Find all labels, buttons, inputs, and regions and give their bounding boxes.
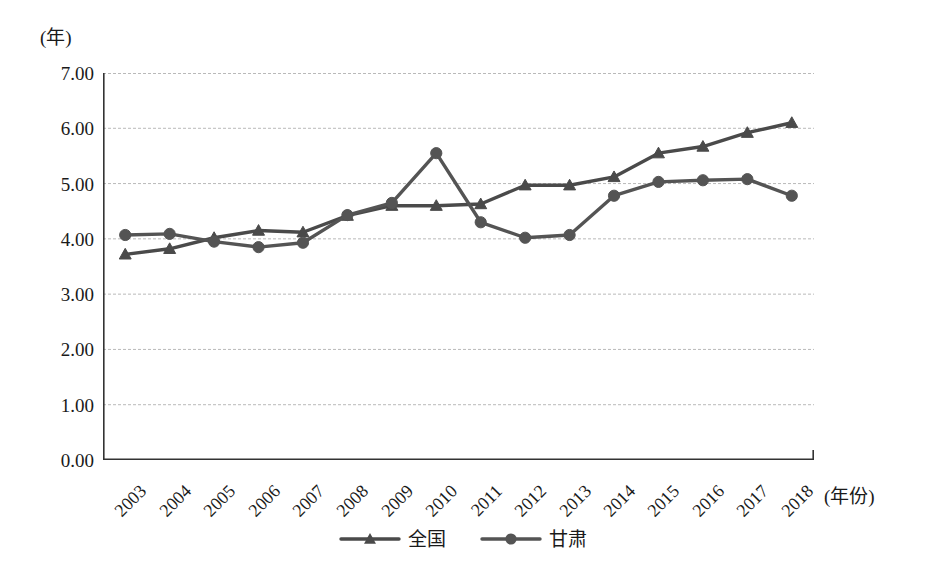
legend-item-national[interactable]: 全国 — [339, 530, 446, 549]
x-axis-tick-label: 2015 — [645, 482, 683, 520]
x-axis-tick-label: 2003 — [111, 482, 149, 520]
x-axis-tick-label: 2017 — [734, 482, 772, 520]
x-axis-tick-label: 2016 — [689, 482, 727, 520]
x-axis-tick-label: 2014 — [600, 482, 638, 520]
legend-triangle-marker-icon — [339, 530, 401, 548]
chart-legend: 全国甘肃 — [0, 519, 926, 559]
x-axis-tick-label: 2012 — [511, 482, 549, 520]
legend-circle-marker-icon — [480, 530, 542, 548]
legend-label: 全国 — [408, 530, 446, 549]
x-axis-tick-label: 2004 — [156, 482, 194, 520]
x-axis-tick-label: 2008 — [334, 482, 372, 520]
x-axis-tick-label: 2006 — [245, 482, 283, 520]
legend-item-gansu[interactable]: 甘肃 — [480, 530, 587, 549]
x-axis-tick-labels: 2003200420052006200720082009201020112012… — [0, 0, 926, 575]
x-axis-tick-label: 2018 — [778, 482, 816, 520]
x-axis-tick-label: 2010 — [422, 482, 460, 520]
x-axis-tick-label: 2011 — [467, 482, 505, 520]
x-axis-tick-label: 2013 — [556, 482, 594, 520]
x-axis-title: (年份) — [824, 487, 875, 506]
legend-label: 甘肃 — [549, 530, 587, 549]
x-axis-tick-label: 2009 — [378, 482, 416, 520]
line-chart: (年) 7.006.005.004.003.002.001.000.00 200… — [0, 0, 926, 575]
x-axis-tick-label: 2005 — [200, 482, 238, 520]
x-axis-tick-label: 2007 — [289, 482, 327, 520]
